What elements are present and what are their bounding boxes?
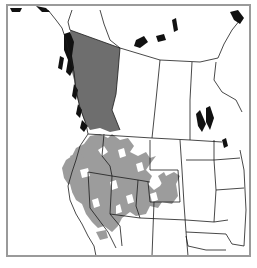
map-svg [0,0,257,268]
map-container: Range map of western North America [0,0,257,268]
